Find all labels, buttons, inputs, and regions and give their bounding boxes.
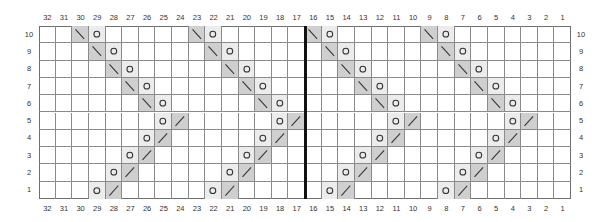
knit-cell bbox=[205, 95, 222, 112]
knit-cell bbox=[355, 182, 372, 199]
yarn-over-circle-icon bbox=[505, 113, 521, 129]
yarn-over-circle-icon bbox=[106, 164, 122, 180]
knit-cell bbox=[189, 164, 206, 181]
column-label-bottom: 6 bbox=[472, 204, 488, 214]
column-label-bottom: 15 bbox=[322, 204, 338, 214]
row-label-right: 4 bbox=[573, 133, 589, 143]
row-label-left: 7 bbox=[21, 82, 37, 92]
slash-decrease-icon bbox=[106, 182, 122, 199]
row-label-right: 5 bbox=[573, 116, 589, 126]
knit-cell bbox=[39, 61, 56, 78]
knit-cell bbox=[455, 26, 472, 43]
knit-cell bbox=[122, 95, 139, 112]
column-label-top: 23 bbox=[189, 13, 205, 23]
yarn-over-cell bbox=[471, 147, 488, 164]
backslash-decrease-icon bbox=[471, 78, 487, 94]
yarn-over-cell bbox=[106, 43, 123, 60]
knit-cell bbox=[521, 147, 538, 164]
yarn-over-cell bbox=[438, 26, 455, 43]
knit-cell bbox=[505, 26, 522, 43]
column-label-top: 14 bbox=[339, 13, 355, 23]
knit-cell bbox=[222, 113, 239, 130]
knit-cell bbox=[255, 182, 272, 199]
left-decrease-cell bbox=[438, 43, 455, 60]
knit-cell bbox=[56, 164, 73, 181]
knit-cell bbox=[421, 130, 438, 147]
knit-cell bbox=[388, 26, 405, 43]
column-label-bottom: 31 bbox=[56, 204, 72, 214]
yarn-over-circle-icon bbox=[89, 26, 105, 42]
yarn-over-circle-icon bbox=[372, 78, 388, 94]
slash-decrease-icon bbox=[471, 164, 487, 180]
yarn-over-circle-icon bbox=[122, 61, 138, 77]
knit-cell bbox=[322, 164, 339, 181]
left-decrease-cell bbox=[89, 43, 106, 60]
knit-cell bbox=[39, 113, 56, 130]
column-label-top: 27 bbox=[122, 13, 138, 23]
yarn-over-circle-icon bbox=[322, 182, 338, 199]
row-label-right: 6 bbox=[573, 99, 589, 109]
column-label-top: 22 bbox=[206, 13, 222, 23]
knit-cell bbox=[239, 95, 256, 112]
knit-cell bbox=[72, 147, 89, 164]
slash-decrease-icon bbox=[139, 147, 155, 163]
knit-cell bbox=[56, 61, 73, 78]
knit-cell bbox=[139, 113, 156, 130]
column-label-top: 16 bbox=[305, 13, 321, 23]
yarn-over-circle-icon bbox=[255, 130, 271, 146]
column-label-bottom: 18 bbox=[272, 204, 288, 214]
knit-cell bbox=[372, 182, 389, 199]
knit-cell bbox=[554, 95, 571, 112]
knit-cell bbox=[106, 130, 123, 147]
knit-cell bbox=[288, 78, 305, 95]
slash-decrease-icon bbox=[372, 147, 388, 163]
row-label-left: 10 bbox=[21, 30, 37, 40]
knit-cell bbox=[455, 147, 472, 164]
knit-cell bbox=[521, 43, 538, 60]
knit-cell bbox=[488, 182, 505, 199]
knit-cell bbox=[189, 43, 206, 60]
knit-cell bbox=[89, 130, 106, 147]
yarn-over-cell bbox=[388, 113, 405, 130]
yarn-over-circle-icon bbox=[322, 26, 338, 42]
yarn-over-circle-icon bbox=[388, 113, 404, 129]
knit-cell bbox=[521, 95, 538, 112]
knit-cell bbox=[122, 113, 139, 130]
yarn-over-cell bbox=[272, 113, 289, 130]
column-label-bottom: 17 bbox=[289, 204, 305, 214]
knit-cell bbox=[388, 61, 405, 78]
knit-cell bbox=[405, 130, 422, 147]
knit-cell bbox=[288, 164, 305, 181]
knit-cell bbox=[222, 95, 239, 112]
knit-cell bbox=[155, 26, 172, 43]
yarn-over-cell bbox=[455, 43, 472, 60]
knit-cell bbox=[438, 164, 455, 181]
knit-cell bbox=[139, 164, 156, 181]
knit-cell bbox=[471, 113, 488, 130]
yarn-over-circle-icon bbox=[488, 130, 504, 146]
left-decrease-cell bbox=[488, 95, 505, 112]
knit-cell bbox=[56, 130, 73, 147]
knit-cell bbox=[554, 26, 571, 43]
column-label-bottom: 25 bbox=[156, 204, 172, 214]
column-label-top: 10 bbox=[405, 13, 421, 23]
knit-cell bbox=[39, 182, 56, 199]
column-label-top: 5 bbox=[488, 13, 504, 23]
row-label-left: 4 bbox=[21, 133, 37, 143]
knit-cell bbox=[388, 182, 405, 199]
yarn-over-circle-icon bbox=[438, 182, 454, 199]
knit-cell bbox=[471, 182, 488, 199]
slash-decrease-icon bbox=[355, 164, 371, 180]
yarn-over-circle-icon bbox=[155, 113, 171, 129]
knit-cell bbox=[305, 130, 322, 147]
knit-cell bbox=[421, 95, 438, 112]
knit-cell bbox=[56, 113, 73, 130]
knit-cell bbox=[421, 61, 438, 78]
column-label-bottom: 28 bbox=[106, 204, 122, 214]
right-decrease-cell bbox=[488, 147, 505, 164]
column-label-top: 30 bbox=[73, 13, 89, 23]
knit-cell bbox=[139, 43, 156, 60]
backslash-decrease-icon bbox=[488, 95, 504, 111]
knit-cell bbox=[172, 182, 189, 199]
yarn-over-circle-icon bbox=[438, 26, 454, 42]
